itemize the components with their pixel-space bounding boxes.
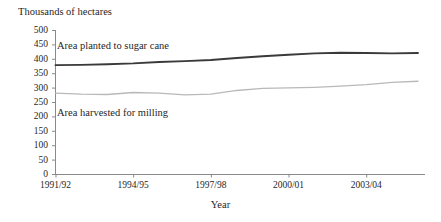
- x-tick-label: 1994/95: [105, 180, 161, 190]
- y-tick-label: 350: [22, 68, 48, 78]
- y-tick-label: 100: [22, 140, 48, 150]
- y-tick-label: 200: [22, 111, 48, 121]
- x-axis-title: Year: [0, 199, 441, 210]
- y-tick-label: 400: [22, 54, 48, 64]
- y-tick-label: 0: [22, 169, 48, 179]
- series-line-area-harvested: [56, 81, 419, 95]
- y-tick-label: 250: [22, 97, 48, 107]
- y-tick-label: 500: [22, 25, 48, 35]
- series-line-area-planted: [56, 53, 419, 65]
- y-tick-label: 300: [22, 83, 48, 93]
- y-axis-ticks: [52, 31, 56, 175]
- series-lines: [56, 53, 419, 95]
- y-tick-label: 450: [22, 39, 48, 49]
- x-tick-label: 1991/92: [28, 180, 84, 190]
- y-tick-label: 150: [22, 126, 48, 136]
- x-tick-label: 1997/98: [183, 180, 239, 190]
- chart-figure: Thousands of hectares 050100150200250300…: [0, 0, 441, 222]
- y-tick-label: 50: [22, 155, 48, 165]
- series-label-area-planted: Area planted to sugar cane: [57, 40, 169, 52]
- series-label-area-harvested: Area harvested for milling: [57, 107, 168, 119]
- x-tick-label: 2003/04: [338, 180, 394, 190]
- x-tick-label: 2000/01: [261, 180, 317, 190]
